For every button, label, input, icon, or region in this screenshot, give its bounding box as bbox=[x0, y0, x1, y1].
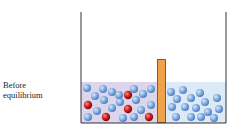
semipermeable-membrane-divider bbox=[158, 60, 166, 123]
osmosis-container-diagram bbox=[0, 0, 242, 133]
